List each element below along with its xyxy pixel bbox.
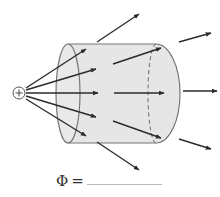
flux-equals: =	[71, 172, 84, 190]
flux-symbol: Φ	[56, 172, 68, 190]
point-charge	[13, 87, 25, 99]
gauss-law-diagram	[0, 0, 220, 197]
field-line	[97, 142, 139, 170]
flux-prompt: Φ =	[56, 172, 162, 190]
field-line	[179, 139, 211, 149]
flux-answer-blank[interactable]	[87, 183, 162, 185]
field-line	[97, 14, 139, 42]
field-line	[179, 33, 211, 42]
